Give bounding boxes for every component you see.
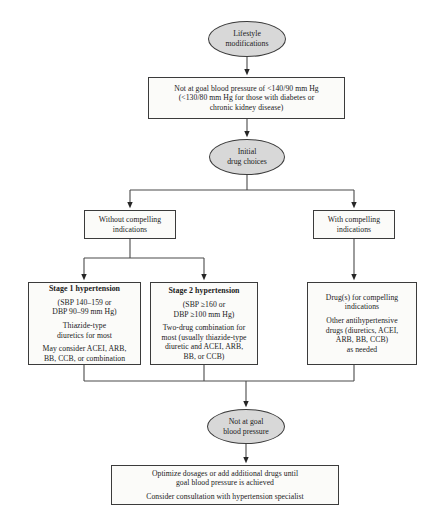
node-line: indications	[337, 225, 371, 234]
node-without-compelling-indications: Without compelling indications	[84, 210, 176, 239]
node-line: (SBP ≥160 or	[174, 300, 235, 309]
node-line: blood pressure	[223, 427, 269, 437]
node-line: Initial	[238, 147, 257, 157]
node-heading: Stage 2 hypertension	[168, 286, 239, 296]
node-line: diuretic and ACEI, ARB,	[161, 342, 246, 351]
node-line: drug choices	[227, 157, 267, 167]
node-line: DBP ≥100 mm Hg)	[174, 310, 235, 319]
node-initial-drug-choices: Initial drug choices	[209, 139, 285, 175]
node-line: Two-drug combination for	[161, 323, 246, 332]
node-line: (SBP 140–159 or	[52, 298, 116, 307]
node-line: Thiazide-type	[57, 321, 112, 330]
node-not-at-goal-blood-pressure: Not at goal blood pressure	[207, 409, 285, 444]
node-line: diuretics for most	[57, 331, 112, 340]
node-line: drugs (diuretics, ACEI,	[326, 326, 398, 335]
node-line: Consider consultation with hypertension …	[146, 492, 304, 501]
node-line: indications	[326, 302, 398, 311]
node-line: Without compelling	[99, 215, 161, 224]
node-line: modifications	[226, 39, 269, 49]
node-line: Not at goal	[229, 417, 264, 427]
node-optimize-dosages: Optimize dosages or add additional drugs…	[111, 465, 339, 505]
node-heading: Stage 1 hypertension	[49, 284, 120, 294]
node-stage-2-hypertension: Stage 2 hypertension (SBP ≥160 or DBP ≥1…	[150, 282, 258, 365]
node-lifestyle-modifications: Lifestyle modifications	[208, 21, 286, 57]
flowchart-canvas: Lifestyle modifications Not at goal bloo…	[0, 0, 435, 520]
node-line: Optimize dosages or add additional drugs…	[152, 469, 298, 478]
node-line: chronic kidney disease)	[210, 103, 284, 112]
node-line: indications	[113, 225, 147, 234]
node-line: Not at goal blood pressure of <140/90 mm…	[174, 84, 318, 93]
node-line: BB, CCB, or combination	[43, 354, 127, 363]
node-line: Drug(s) for compelling	[326, 293, 398, 302]
node-line: (<130/80 mm Hg for those with diabetes o…	[179, 93, 315, 102]
node-line: May consider ACEI, ARB,	[43, 344, 127, 353]
node-line: ARB, BB, CCB)	[326, 335, 398, 344]
node-with-compelling-indications: With compelling indications	[313, 210, 395, 239]
node-drugs-for-compelling-indications: Drug(s) for compelling indications Other…	[307, 282, 417, 365]
node-line: BB, or CCB)	[161, 352, 246, 361]
node-not-at-goal-blood-pressure-criteria: Not at goal blood pressure of <140/90 mm…	[148, 77, 345, 119]
node-line: Other antihypertensive	[326, 316, 398, 325]
node-stage-1-hypertension: Stage 1 hypertension (SBP 140–159 or DBP…	[28, 282, 141, 365]
node-line: goal blood pressure is achieved	[152, 478, 298, 487]
node-line: With compelling	[328, 215, 380, 224]
node-line: DBP 90–99 mm Hg)	[52, 307, 116, 316]
node-line: most (usually thiazide-type	[161, 333, 246, 342]
node-line: Lifestyle	[233, 29, 261, 39]
node-line: as needed	[326, 345, 398, 354]
